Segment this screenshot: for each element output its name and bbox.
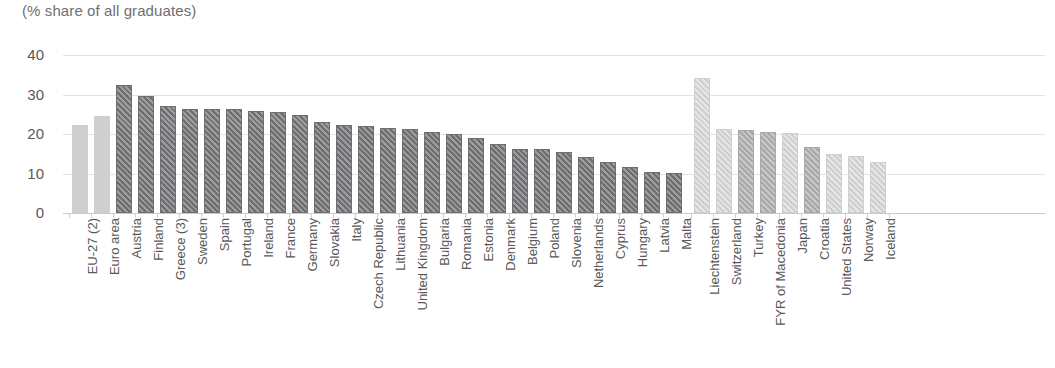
x-axis-tick (267, 213, 268, 218)
bar (848, 156, 864, 213)
bar (622, 167, 638, 213)
x-axis-label: Croatia (818, 218, 832, 260)
axis-baseline (63, 213, 1045, 214)
bar (512, 149, 528, 213)
bar (738, 130, 754, 213)
bar (490, 144, 506, 213)
bar (534, 149, 550, 213)
x-axis-label: Lithuania (394, 218, 408, 271)
x-axis-label: Germany (306, 218, 320, 271)
bar (716, 129, 732, 213)
y-axis-tick-label: 20 (0, 125, 44, 142)
bar (358, 126, 374, 213)
x-axis-tick (91, 213, 92, 218)
bar (694, 78, 710, 213)
x-axis-label: Ireland (262, 218, 276, 258)
x-axis-tick (641, 213, 642, 218)
x-axis-tick (509, 213, 510, 218)
x-axis-tick (355, 213, 356, 218)
x-axis-label: Japan (796, 218, 810, 253)
x-axis-tick (619, 213, 620, 218)
x-axis-tick (663, 213, 664, 218)
bar (446, 134, 462, 213)
x-axis-label: Slovenia (570, 218, 584, 268)
bar (468, 138, 484, 213)
bar (94, 116, 110, 213)
x-axis-label: Hungary (636, 218, 650, 267)
x-axis-tick (531, 213, 532, 218)
x-axis-label: Iceland (884, 218, 898, 260)
x-axis-label: EU-27 (2) (86, 218, 100, 274)
x-axis-label: Cyprus (614, 218, 628, 259)
bar (556, 152, 572, 213)
gridline (63, 95, 1045, 96)
x-axis-tick (779, 213, 780, 218)
x-axis-tick (157, 213, 158, 218)
bar (870, 162, 886, 213)
x-axis-label: France (284, 218, 298, 258)
x-axis-tick (553, 213, 554, 218)
x-axis-label: Romania (460, 218, 474, 270)
x-axis-label: Austria (130, 218, 144, 258)
x-axis-label: Czech Republic (372, 218, 386, 309)
x-axis-label: United States (840, 218, 854, 296)
bar (826, 154, 842, 213)
x-axis-label: Belgium (526, 218, 540, 265)
x-axis-label: Liechtenstein (708, 218, 722, 295)
y-axis-tick-label: 10 (0, 165, 44, 182)
x-axis-tick (311, 213, 312, 218)
x-axis-tick (691, 213, 692, 218)
x-axis-label: Spain (218, 218, 232, 251)
bar (138, 96, 154, 213)
bar (116, 85, 132, 213)
x-axis-label: Denmark (504, 218, 518, 271)
x-axis-tick (443, 213, 444, 218)
x-axis-label: Finland (152, 218, 166, 261)
bar (336, 125, 352, 213)
x-axis-label: Portugal (240, 218, 254, 266)
bar (182, 109, 198, 213)
x-axis-tick (487, 213, 488, 218)
bar (760, 132, 776, 213)
x-axis-tick (377, 213, 378, 218)
x-axis-tick (867, 213, 868, 218)
x-axis-tick (135, 213, 136, 218)
x-axis-tick (179, 213, 180, 218)
bar (226, 109, 242, 213)
x-axis-tick (223, 213, 224, 218)
bar (314, 122, 330, 213)
x-axis-label: Estonia (482, 218, 496, 261)
y-axis-tick-label: 30 (0, 86, 44, 103)
y-axis: 403020100 (0, 0, 55, 368)
x-axis-tick (823, 213, 824, 218)
x-axis-tick (201, 213, 202, 218)
x-axis-tick (333, 213, 334, 218)
bar (248, 111, 264, 213)
bar (270, 112, 286, 213)
x-axis-label: Turkey (752, 218, 766, 257)
x-axis-label: United Kingdom (416, 218, 430, 311)
x-axis-label: Slovakia (328, 218, 342, 267)
x-axis-tick (421, 213, 422, 218)
x-axis-label: Bulgaria (438, 218, 452, 266)
x-axis-tick (113, 213, 114, 218)
bar (600, 162, 616, 213)
y-axis-tick-label: 40 (0, 46, 44, 63)
x-axis-tick (889, 213, 890, 218)
x-axis-label: Greece (3) (174, 218, 188, 280)
bar (204, 109, 220, 213)
x-axis-tick (245, 213, 246, 218)
x-axis-tick (399, 213, 400, 218)
x-axis-label: Latvia (658, 218, 672, 253)
x-axis-label: Euro area (108, 218, 122, 275)
x-axis-tick (713, 213, 714, 218)
bar (804, 147, 820, 213)
x-axis-tick (575, 213, 576, 218)
bar (424, 132, 440, 213)
bar-chart: (% share of all graduates) 403020100 EU-… (0, 0, 1055, 368)
gridline (63, 55, 1045, 56)
x-axis-label: Italy (350, 218, 364, 242)
bar (402, 129, 418, 213)
x-axis-label: Switzerland (730, 218, 744, 285)
x-axis-label: Norway (862, 218, 876, 262)
